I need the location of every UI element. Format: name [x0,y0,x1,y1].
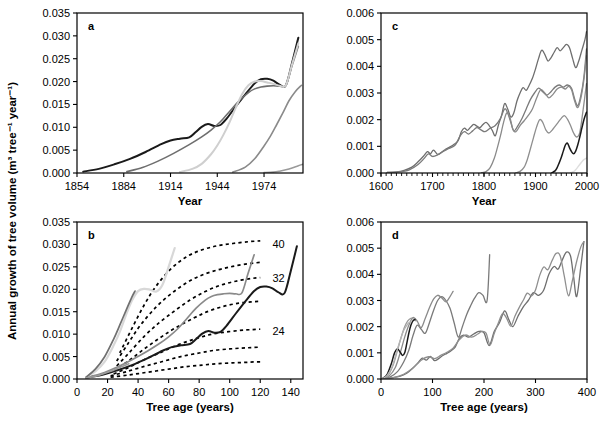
series-line-stand-1 [387,32,586,173]
panel-c-xticklabel-3: 1900 [523,180,547,192]
figure-container: 0.0000.0050.0100.0150.0200.0250.0300.035… [0,0,601,421]
panel-c-xaxis-title: Year [472,195,497,207]
panel-d: 0.0000.0010.0020.0030.0040.0050.00601002… [346,216,596,413]
panel-b-annotation-32: 32 [272,272,284,284]
panel-c-xticklabel-4: 2000 [575,180,599,192]
panel-d-xticklabel-0: 0 [378,386,384,398]
panel-a-yticklabel-0: 0.000 [42,167,70,179]
series-line-stand-3 [86,248,175,377]
reference-curve-si-20 [111,347,261,376]
panel-d-xaxis-title: Tree age (years) [440,401,528,413]
panel-a-yticklabel-2: 0.010 [42,121,70,133]
panel-b-yticklabel-5: 0.025 [42,261,70,273]
panel-d-yticklabel-0: 0.000 [346,373,374,385]
panel-c-yticklabel-0: 0.000 [346,167,374,179]
series-line-stand-5 [264,164,303,172]
panel-c-yticklabel-6: 0.006 [346,7,374,19]
panel-b-panel-letter: b [88,229,95,241]
panel-a: 0.0000.0050.0100.0150.0200.0250.0300.035… [42,7,303,207]
panel-b-xticklabel-5: 100 [221,386,239,398]
panel-d-yticklabel-4: 0.004 [346,268,374,280]
panel-b-annotation-40: 40 [272,238,284,250]
panel-c-frame [381,13,587,173]
panel-b-xticklabel-2: 40 [132,386,144,398]
reference-curve-si-36 [117,262,261,361]
yaxis-title: Annual growth of tree volume (m³ tree⁻¹ … [6,82,18,340]
panel-d-yticklabel-6: 0.006 [346,216,374,228]
panel-b-yticklabel-7: 0.035 [42,216,70,228]
panel-d-yticklabel-5: 0.005 [346,242,374,254]
panel-c-panel-letter: c [392,20,398,32]
panel-d-xticklabel-2: 200 [475,386,493,398]
panel-d-frame [381,222,587,379]
panel-b-yticklabel-6: 0.030 [42,238,70,250]
panel-d-xticklabel-1: 100 [423,386,441,398]
panel-b-xticklabel-4: 80 [193,386,205,398]
panel-a-xticklabel-2: 1914 [158,180,182,192]
series-line-stand-6 [571,158,587,173]
four-panel-tree-growth-figure: 0.0000.0050.0100.0150.0200.0250.0300.035… [0,0,601,421]
panel-b-xticklabel-0: 0 [74,386,80,398]
panel-c-yticklabel-5: 0.005 [346,34,374,46]
panel-a-yticklabel-6: 0.030 [42,30,70,42]
panel-b-yticklabel-1: 0.005 [42,351,70,363]
panel-c-curves [387,32,586,173]
panel-d-yticklabel-3: 0.003 [346,295,374,307]
panel-b-yticklabel-3: 0.015 [42,306,70,318]
panel-c: 0.0000.0010.0020.0030.0040.0050.00616001… [346,7,599,207]
panel-d-curves [383,242,584,379]
reference-curve-si-40 [120,241,260,353]
panel-c-yticklabel-3: 0.003 [346,87,374,99]
panel-b-annotation-24: 24 [272,325,284,337]
panel-a-yticklabel-3: 0.015 [42,98,70,110]
panel-c-yticklabel-2: 0.002 [346,114,374,126]
series-line-stand-1 [383,242,584,379]
panel-b: 0.0000.0050.0100.0150.0200.0250.0300.035… [42,216,303,413]
panel-c-xticklabel-0: 1600 [369,180,393,192]
panel-a-yticklabel-4: 0.020 [42,76,70,88]
series-line-stand-2 [86,255,254,378]
panel-a-xticklabel-0: 1854 [65,180,89,192]
panel-b-yticklabel-2: 0.010 [42,328,70,340]
panel-d-panel-letter: d [392,229,399,241]
panel-b-xaxis-title: Tree age (years) [146,401,234,413]
panel-d-yticklabel-2: 0.002 [346,321,374,333]
panel-b-yticklabel-0: 0.000 [42,373,70,385]
panel-a-yticklabel-1: 0.005 [42,144,70,156]
panel-c-xticklabel-1: 1700 [420,180,444,192]
series-line-stand-3 [180,43,298,172]
panel-a-yticklabel-7: 0.035 [42,7,70,19]
panel-d-xticklabel-3: 300 [526,386,544,398]
panel-a-xticklabel-3: 1944 [205,180,229,192]
panel-a-frame [77,13,303,173]
series-line-stand-1 [83,38,298,172]
panel-b-xticklabel-3: 60 [162,386,174,398]
panel-c-yticklabel-4: 0.004 [346,60,374,72]
panel-d-xticklabel-4: 400 [578,386,596,398]
panel-d-yticklabel-1: 0.001 [346,347,374,359]
panel-c-yticklabel-1: 0.001 [346,140,374,152]
panel-a-yticklabel-5: 0.025 [42,53,70,65]
panel-b-xticklabel-7: 140 [282,386,300,398]
panel-a-xticklabel-4: 1974 [252,180,276,192]
series-line-stand-7 [383,242,584,379]
series-line-stand-2 [387,49,586,172]
panel-a-panel-letter: a [88,20,95,32]
panel-b-xticklabel-6: 120 [251,386,269,398]
panel-a-curves [83,38,303,173]
panel-b-xticklabel-1: 20 [101,386,113,398]
panel-b-yticklabel-4: 0.020 [42,283,70,295]
panel-a-xaxis-title: Year [178,195,203,207]
panel-b-curves [86,241,297,378]
panel-a-xticklabel-1: 1884 [112,180,136,192]
panel-c-xticklabel-2: 1800 [472,180,496,192]
